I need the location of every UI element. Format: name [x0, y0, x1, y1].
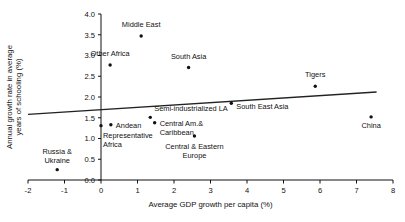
data-point-marker[interactable] — [139, 34, 142, 37]
data-point-label: Tigers — [305, 70, 326, 79]
scatter-chart: 0.00.51.01.52.02.53.03.54.0 -2-101234567… — [0, 0, 405, 222]
data-point-label: Africa — [103, 140, 123, 149]
y-tick-label: 3.5 — [84, 31, 95, 40]
data-point-label: Caribbean — [160, 128, 194, 137]
data-point-marker[interactable] — [153, 121, 156, 124]
x-tick-label: 6 — [318, 186, 322, 195]
y-tick-label: 2.0 — [84, 93, 95, 102]
data-point-label: China — [361, 121, 381, 130]
data-point-label: South East Asia — [236, 102, 289, 111]
data-point-label: Semi-industrialized LA — [154, 104, 228, 113]
x-tick-label: 0 — [99, 186, 103, 195]
data-point-label: Andean — [116, 121, 141, 130]
y-tick-label: 0.5 — [84, 155, 95, 164]
x-axis-title: Average GDP growth per capita (%) — [148, 200, 272, 209]
data-point-marker[interactable] — [230, 102, 233, 105]
data-point-label: Other Africa — [91, 49, 131, 58]
data-point-label: Central & Eastern — [165, 142, 223, 151]
x-tick-label: 3 — [208, 186, 212, 195]
data-point-marker[interactable] — [99, 124, 102, 127]
data-point-marker[interactable] — [369, 115, 372, 118]
data-point-label: Representative — [103, 131, 153, 140]
data-point-marker[interactable] — [56, 168, 59, 171]
x-tick-label: -2 — [25, 186, 32, 195]
data-point-marker[interactable] — [108, 63, 111, 66]
y-tick-label: 1.5 — [84, 114, 95, 123]
data-point-marker[interactable] — [109, 123, 112, 126]
x-tick-label: 4 — [245, 186, 249, 195]
data-point-marker[interactable] — [187, 66, 190, 69]
x-tick-label: 5 — [281, 186, 285, 195]
data-point-marker[interactable] — [193, 134, 196, 137]
data-point-label: Middle East — [122, 20, 161, 29]
data-point-label: Russia & — [42, 147, 72, 156]
x-tick-label: 1 — [135, 186, 139, 195]
chart-canvas: 0.00.51.01.52.02.53.03.54.0 -2-101234567… — [0, 0, 405, 222]
y-tick-label: 2.5 — [84, 72, 95, 81]
x-tick-label: -1 — [61, 186, 68, 195]
data-point-label: Central Am.& — [160, 119, 204, 128]
data-point-label: Europe — [183, 151, 207, 160]
y-tick-label: 4.0 — [84, 10, 95, 19]
x-tick-label: 8 — [391, 186, 395, 195]
y-axis-title-line2: years of schooling (%) — [14, 58, 23, 136]
x-tick-label: 7 — [354, 186, 358, 195]
y-axis-title-line1: Annual growth rate in average — [5, 45, 14, 149]
data-point-label: South Asia — [171, 52, 207, 61]
y-tick-label: 1.0 — [84, 134, 95, 143]
data-point-label: Ukraine — [44, 156, 69, 165]
data-point-marker[interactable] — [149, 116, 152, 119]
data-point-marker[interactable] — [314, 85, 317, 88]
x-tick-label: 2 — [172, 186, 176, 195]
